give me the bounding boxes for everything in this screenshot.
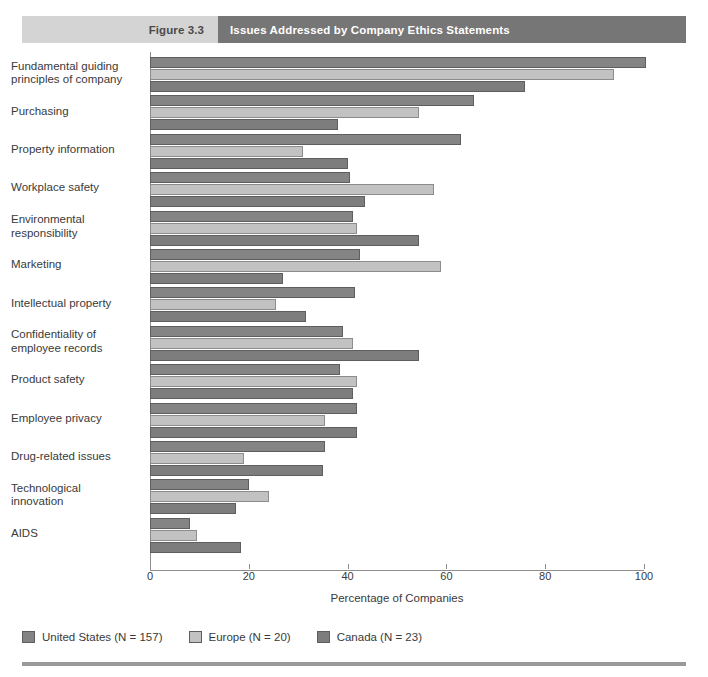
bar — [150, 119, 338, 130]
category-label: Employee privacy — [11, 412, 135, 426]
bar-group — [150, 403, 644, 439]
bar — [150, 403, 357, 414]
bar — [150, 503, 236, 514]
category-label: Technological innovation — [11, 482, 135, 509]
chart-legend: United States (N = 157)Europe (N = 20)Ca… — [22, 631, 422, 643]
category-axis-labels: Fundamental guiding principles of compan… — [0, 52, 146, 570]
x-tick-label: 0 — [147, 570, 153, 582]
figure-number: Figure 3.3 — [22, 16, 218, 43]
bar — [150, 146, 303, 157]
bar — [150, 376, 357, 387]
bar — [150, 81, 525, 92]
category-label: Intellectual property — [11, 297, 135, 311]
bar-group — [150, 134, 644, 170]
bar — [150, 530, 197, 541]
bar — [150, 261, 441, 272]
bar-group — [150, 95, 644, 131]
bar — [150, 107, 419, 118]
bar-group — [150, 172, 644, 208]
x-tick-label: 20 — [243, 570, 255, 582]
x-tick-mark — [150, 564, 151, 569]
bar — [150, 338, 353, 349]
bar — [150, 491, 269, 502]
x-axis-ticks: 020406080100 — [150, 570, 708, 586]
category-label: Fundamental guiding principles of compan… — [11, 60, 135, 87]
bar-group — [150, 57, 644, 93]
footer-divider — [22, 662, 686, 666]
bar — [150, 364, 340, 375]
category-label: AIDS — [11, 527, 135, 541]
bar — [150, 69, 614, 80]
bar — [150, 518, 190, 529]
bars-region — [150, 52, 690, 570]
category-label: Purchasing — [11, 105, 135, 119]
x-tick-mark — [348, 564, 349, 569]
category-label: Workplace safety — [11, 181, 135, 195]
x-tick-label: 60 — [440, 570, 452, 582]
bar — [150, 287, 355, 298]
category-label: Property information — [11, 143, 135, 157]
category-label: Drug-related issues — [11, 450, 135, 464]
legend-label: Canada (N = 23) — [337, 631, 422, 643]
x-tick-label: 40 — [341, 570, 353, 582]
legend-item[interactable]: Europe (N = 20) — [189, 631, 291, 643]
bar — [150, 479, 249, 490]
bar — [150, 299, 276, 310]
bar — [150, 223, 357, 234]
figure-title: Issues Addressed by Company Ethics State… — [218, 16, 686, 43]
bar-group — [150, 518, 644, 554]
bar — [150, 427, 357, 438]
bar — [150, 196, 365, 207]
x-tick-mark — [644, 564, 645, 569]
category-label: Environmental responsibility — [11, 213, 135, 240]
category-label: Product safety — [11, 373, 135, 387]
bar — [150, 184, 434, 195]
bar — [150, 172, 350, 183]
x-tick-label: 100 — [635, 570, 653, 582]
figure-header-band: Figure 3.3 Issues Addressed by Company E… — [22, 16, 686, 43]
bar — [150, 465, 323, 476]
x-tick-mark — [249, 564, 250, 569]
bar-group — [150, 479, 644, 515]
x-tick-label: 80 — [539, 570, 551, 582]
category-label: Confidentiality of employee records — [11, 328, 135, 355]
bar — [150, 350, 419, 361]
bar — [150, 441, 325, 452]
legend-swatch-icon — [22, 631, 35, 643]
legend-item[interactable]: United States (N = 157) — [22, 631, 163, 643]
legend-swatch-icon — [317, 631, 330, 643]
x-tick-mark — [545, 564, 546, 569]
bar — [150, 326, 343, 337]
legend-item[interactable]: Canada (N = 23) — [317, 631, 422, 643]
legend-label: Europe (N = 20) — [209, 631, 291, 643]
bar — [150, 415, 325, 426]
bar-group — [150, 249, 644, 285]
bar — [150, 542, 241, 553]
bar — [150, 453, 244, 464]
bar — [150, 388, 353, 399]
bar — [150, 95, 474, 106]
bar-group — [150, 326, 644, 362]
bar — [150, 249, 360, 260]
category-label: Marketing — [11, 258, 135, 272]
x-axis-title: Percentage of Companies — [150, 592, 644, 604]
bar-group — [150, 211, 644, 247]
legend-label: United States (N = 157) — [42, 631, 163, 643]
bar — [150, 158, 348, 169]
x-tick-mark — [446, 564, 447, 569]
bar — [150, 211, 353, 222]
bar — [150, 273, 283, 284]
bar-group — [150, 364, 644, 400]
legend-swatch-icon — [189, 631, 202, 643]
bar — [150, 57, 646, 68]
bar — [150, 235, 419, 246]
bar-group — [150, 287, 644, 323]
bar — [150, 311, 306, 322]
chart-plot-area: Fundamental guiding principles of compan… — [0, 52, 708, 582]
bar-group — [150, 441, 644, 477]
bar — [150, 134, 461, 145]
